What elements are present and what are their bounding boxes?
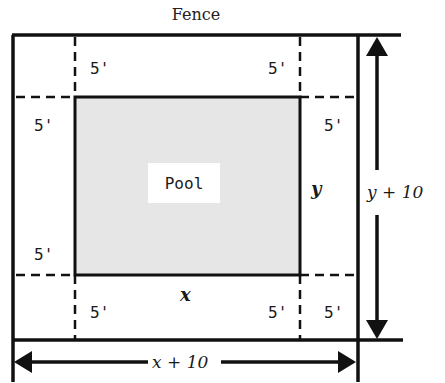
offset-label-left-top: 5' [34,116,53,135]
offset-label-top-right: 5' [268,59,287,78]
arrow-down-icon [366,320,388,339]
total-height-label: y + 10 [366,182,423,202]
pool-label: Pool [165,174,204,193]
offset-label-top-left: 5' [90,59,109,78]
total-width-label: x + 10 [152,352,208,372]
arrow-left-icon [14,351,32,373]
offset-label-right-top: 5' [324,116,343,135]
offset-label-bottom-left: 5' [90,303,109,322]
offset-label-bottom-right-inner: 5' [268,303,287,322]
pool-fence-diagram: Fence y + 10 x + 10 Pool y [0,0,445,383]
offset-label-bottom-right-outer: 5' [324,303,343,322]
pool-width-label: x [179,284,191,305]
fence-title: Fence [172,5,220,24]
offset-label-left-bottom: 5' [34,245,53,264]
arrow-right-icon [338,351,356,373]
arrow-up-icon [366,37,388,56]
pool-height-label: y [310,178,323,199]
